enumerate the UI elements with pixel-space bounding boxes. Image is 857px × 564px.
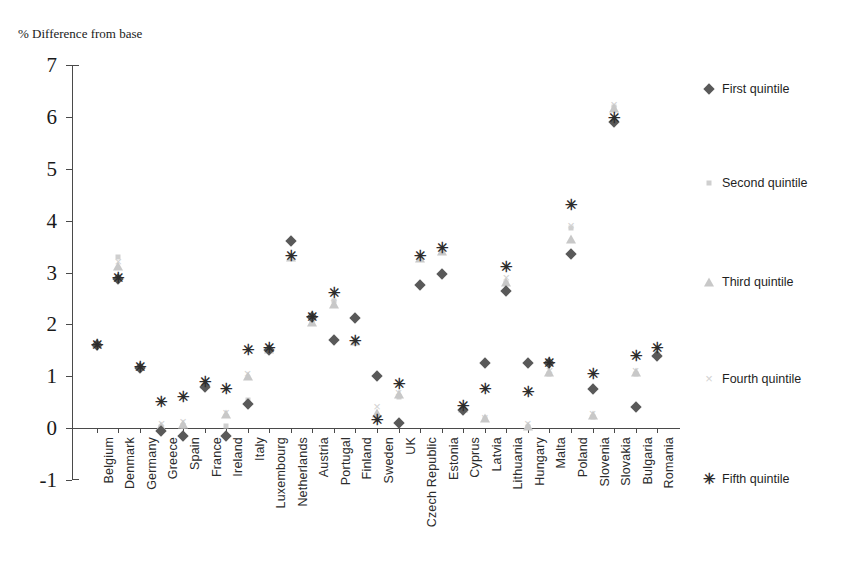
data-point: ✳ [220,383,232,395]
y-axis-tick: 7 [66,65,72,66]
y-axis-tick: 3 [66,273,72,274]
data-point: ✳ [565,199,577,211]
x-axis-label-hungary: Hungary [533,437,547,486]
x-axis-label-cyprus: Cyprus [468,437,482,478]
x-axis-tick [636,428,637,433]
data-point: ✳ [543,357,555,369]
y-axis-tick-label: 4 [47,208,58,233]
legend-item-fifth-quintile[interactable]: ✳Fifth quintile [703,472,789,486]
data-point: ✳ [242,344,254,356]
cross-marker-icon: × [703,373,715,385]
x-axis-tick [549,428,550,433]
data-point [480,413,490,422]
data-point: ✳ [285,250,297,262]
y-axis-tick-label: 5 [47,156,58,181]
legend-label: Fourth quintile [722,372,801,386]
legend-item-fourth-quintile[interactable]: ×Fourth quintile [703,372,801,386]
data-point: ✳ [263,342,275,354]
x-axis-label-latvia: Latvia [490,437,504,472]
x-axis-tick [248,428,249,433]
y-axis-tick-label: 0 [47,416,58,441]
star-marker-icon: ✳ [703,473,715,485]
legend-label: Third quintile [722,275,794,289]
data-point: ✳ [349,335,361,347]
x-axis-label-italy: Italy [253,437,267,461]
data-point: ✳ [371,414,383,426]
data-point [242,398,253,409]
y-axis-tick-label: 6 [47,104,58,129]
x-axis-tick [571,428,572,433]
x-axis-label-finland: Finland [360,437,374,479]
legend-item-third-quintile[interactable]: Third quintile [703,275,794,289]
x-axis-label-czech-republic: Czech Republic [425,437,439,527]
x-axis-tick [377,428,378,433]
y-axis-tick: 2 [66,324,72,325]
y-axis-tick-label: 3 [47,260,58,285]
data-point [523,421,533,430]
x-axis-tick [442,428,443,433]
data-point: ✳ [479,383,491,395]
y-axis-tick: 4 [66,221,72,222]
data-point: ✳ [436,242,448,254]
data-point: ✳ [587,368,599,380]
data-point: ✳ [199,376,211,388]
data-point [501,285,512,296]
plot-area: 76543210-1 BelgiumDenmarkGermanyGreeceSp… [72,65,680,480]
x-axis-tick [118,428,119,433]
x-axis-label-belgium: Belgium [102,437,116,484]
x-axis-label-malta: Malta [554,437,568,469]
x-axis-label-austria: Austria [317,437,331,477]
x-axis-tick [205,428,206,433]
data-point [436,268,447,279]
data-point: ✳ [155,396,167,408]
x-axis-tick [334,428,335,433]
y-axis-title: % Difference from base [18,26,142,42]
x-axis-tick [140,428,141,433]
data-point: ✳ [457,400,469,412]
y-axis-tick-label: 7 [47,53,58,78]
chart-container: % Difference from base 76543210-1 Belgiu… [0,0,857,564]
data-point: ✳ [500,261,512,273]
x-axis-label-luxembourg: Luxembourg [274,437,288,509]
data-point [479,358,490,369]
y-axis-tick: 5 [66,169,72,170]
data-point: ✳ [393,378,405,390]
diamond-marker-icon [703,83,715,95]
x-axis-label-bulgaria: Bulgaria [641,437,655,484]
square-marker-icon [703,177,715,189]
x-axis-label-sweden: Sweden [382,437,396,483]
data-point [587,384,598,395]
data-point [566,234,576,243]
data-point [243,372,253,381]
x-axis-label-ireland: Ireland [231,437,245,477]
x-axis-label-france: France [210,437,224,477]
y-axis-tick: 6 [66,117,72,118]
x-axis-tick [97,428,98,433]
x-axis-tick [463,428,464,433]
x-axis-label-denmark: Denmark [123,437,137,489]
x-axis-tick [291,428,292,433]
data-point: ✳ [328,287,340,299]
x-axis-label-slovenia: Slovenia [598,437,612,487]
x-axis-tick [269,428,270,433]
y-axis-tick: -1 [66,480,72,481]
x-axis-tick [657,428,658,433]
x-axis-label-estonia: Estonia [447,437,461,480]
x-axis-label-germany: Germany [145,437,159,490]
legend-item-second-quintile[interactable]: Second quintile [703,176,807,190]
legend-item-first-quintile[interactable]: First quintile [703,82,789,96]
x-axis-tick [593,428,594,433]
data-point: ✳ [91,339,103,351]
y-axis-tick: 1 [66,376,72,377]
data-point: × [566,221,576,231]
data-point: ✳ [134,361,146,373]
x-axis-label-lithuania: Lithuania [511,437,525,490]
x-axis-tick [355,428,356,433]
legend-label: First quintile [722,82,789,96]
x-axis-tick [485,428,486,433]
data-point: ✳ [306,311,318,323]
data-point: ✳ [414,250,426,262]
data-point: ✳ [651,342,663,354]
data-point [414,280,425,291]
data-point: ✳ [608,112,620,124]
